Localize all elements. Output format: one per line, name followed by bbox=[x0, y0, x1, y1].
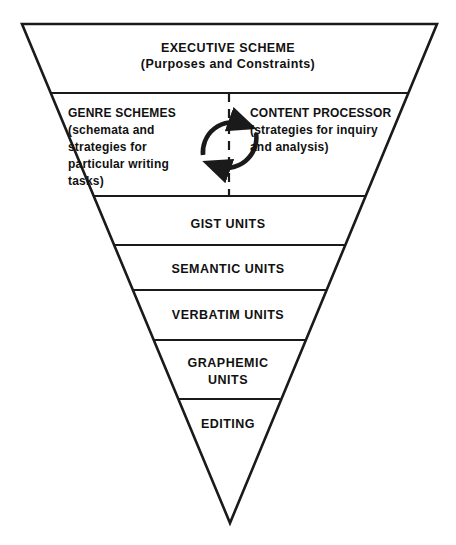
tier-label-graphemic-units: GRAPHEMIC UNITS bbox=[138, 355, 318, 389]
tier-label-gist-units: GIST UNITS bbox=[128, 216, 328, 232]
tier-label-genre-schemes: GENRE SCHEMES (schemata and strategies f… bbox=[68, 105, 208, 190]
tier-label-verbatim-units: VERBATIM UNITS bbox=[128, 307, 328, 323]
tier-label-executive-scheme: EXECUTIVE SCHEME (Purposes and Constrain… bbox=[78, 40, 378, 72]
tier-label-semantic-units: SEMANTIC UNITS bbox=[128, 261, 328, 277]
pyramid-diagram: EXECUTIVE SCHEME (Purposes and Constrain… bbox=[0, 0, 456, 545]
tier-label-editing: EDITING bbox=[158, 416, 298, 432]
tier-label-content-processor: CONTENT PROCESSOR (strategies for inquir… bbox=[250, 105, 415, 156]
